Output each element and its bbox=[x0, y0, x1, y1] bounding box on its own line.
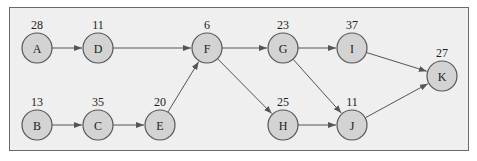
node-f: F6 bbox=[192, 18, 222, 63]
node-a: A28 bbox=[22, 18, 52, 63]
edge-i-k bbox=[366, 52, 426, 71]
edge-e-f bbox=[168, 62, 199, 113]
node-c: C35 bbox=[83, 95, 113, 140]
node-weight: 13 bbox=[31, 95, 43, 109]
edge-j-k bbox=[365, 84, 428, 118]
node-weight: 25 bbox=[277, 95, 289, 109]
node-label: K bbox=[438, 70, 447, 84]
node-label: C bbox=[94, 119, 102, 133]
node-label: B bbox=[33, 119, 41, 133]
node-weight: 27 bbox=[436, 46, 448, 60]
edge-g-j bbox=[293, 59, 341, 113]
node-weight: 35 bbox=[92, 95, 104, 109]
node-g: G23 bbox=[268, 18, 298, 63]
node-label: I bbox=[350, 42, 354, 56]
node-weight: 23 bbox=[277, 18, 289, 32]
node-b: B13 bbox=[22, 95, 52, 140]
node-weight: 11 bbox=[92, 18, 104, 32]
node-i: I37 bbox=[337, 18, 367, 63]
node-label: A bbox=[33, 42, 42, 56]
node-weight: 37 bbox=[346, 18, 358, 32]
node-label: G bbox=[279, 42, 288, 56]
node-weight: 28 bbox=[31, 18, 43, 32]
edge-f-h bbox=[218, 59, 272, 114]
node-h: H25 bbox=[268, 95, 298, 140]
node-label: D bbox=[94, 42, 103, 56]
network-diagram: A28D11F6G23I37K27B13C35E20H25J11 bbox=[0, 0, 477, 161]
node-d: D11 bbox=[83, 18, 113, 63]
node-j: J11 bbox=[337, 95, 367, 140]
node-label: E bbox=[156, 119, 163, 133]
node-weight: 6 bbox=[204, 18, 210, 32]
node-label: F bbox=[204, 42, 211, 56]
nodes-layer: A28D11F6G23I37K27B13C35E20H25J11 bbox=[22, 18, 457, 140]
node-label: H bbox=[279, 119, 288, 133]
node-weight: 20 bbox=[154, 95, 166, 109]
node-label: J bbox=[350, 119, 355, 133]
node-k: K27 bbox=[427, 46, 457, 91]
node-e: E20 bbox=[145, 95, 175, 140]
node-weight: 11 bbox=[346, 95, 358, 109]
